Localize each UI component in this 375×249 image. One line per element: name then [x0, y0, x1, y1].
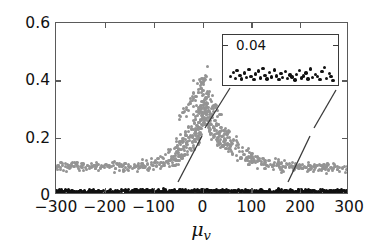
data-point: [225, 132, 228, 135]
data-point: [213, 129, 216, 132]
data-point: [270, 192, 273, 193]
data-point: [69, 190, 72, 193]
data-point: [201, 116, 204, 119]
data-point: [197, 121, 200, 124]
data-point: [103, 166, 106, 169]
data-point: [223, 190, 226, 193]
data-point: [59, 189, 62, 192]
data-point: [209, 122, 212, 125]
data-point: [131, 191, 134, 193]
data-point: [216, 138, 219, 141]
data-point: [244, 158, 247, 161]
data-point: [211, 105, 214, 108]
x-tick-mark-top: [154, 23, 155, 28]
data-point: [135, 188, 138, 191]
data-point: [198, 112, 201, 115]
data-point: [231, 191, 234, 193]
data-point: [110, 191, 113, 193]
inset-data-point: [325, 77, 328, 80]
data-point: [200, 114, 203, 117]
data-point: [318, 168, 321, 171]
data-point: [173, 164, 176, 167]
data-point: [217, 136, 220, 139]
data-point: [278, 189, 281, 192]
inset-data-point: [273, 68, 276, 71]
data-point: [241, 150, 244, 153]
data-point: [189, 147, 192, 150]
data-point: [309, 191, 312, 193]
data-point: [182, 147, 185, 150]
data-point: [256, 160, 259, 163]
data-point: [142, 166, 145, 169]
data-point: [180, 190, 183, 193]
data-point: [99, 166, 102, 169]
data-point: [266, 190, 269, 193]
data-point: [189, 148, 192, 151]
data-point: [268, 192, 271, 193]
data-point: [189, 147, 192, 150]
data-point: [208, 126, 211, 129]
data-point: [94, 190, 97, 193]
data-point: [208, 119, 211, 122]
data-point: [159, 190, 162, 193]
data-point: [233, 192, 236, 193]
data-point: [255, 191, 258, 193]
data-point: [222, 191, 225, 193]
data-point: [269, 163, 272, 166]
data-point: [191, 134, 194, 137]
data-point: [197, 121, 200, 124]
data-point: [174, 152, 177, 155]
data-point: [341, 167, 344, 170]
data-point: [77, 167, 80, 170]
data-point: [257, 190, 260, 193]
data-point: [272, 168, 275, 171]
data-point: [128, 166, 131, 169]
data-point: [327, 163, 330, 166]
data-point: [208, 116, 211, 119]
data-point: [314, 191, 317, 193]
data-point: [202, 112, 205, 115]
data-point: [66, 166, 69, 169]
data-point: [307, 190, 310, 193]
data-point: [71, 191, 74, 193]
data-point: [274, 191, 277, 193]
data-point: [218, 142, 221, 145]
data-point: [210, 115, 213, 118]
data-point: [343, 165, 346, 168]
data-point: [161, 191, 164, 193]
data-point: [294, 190, 297, 193]
data-point: [137, 190, 140, 193]
data-point: [127, 169, 130, 172]
data-point: [66, 163, 69, 166]
data-point: [215, 138, 218, 141]
data-point: [68, 192, 71, 193]
data-point: [124, 162, 127, 165]
data-point: [278, 166, 281, 169]
data-point: [342, 189, 345, 192]
data-point: [194, 99, 197, 102]
data-point: [250, 161, 253, 164]
data-point: [59, 166, 62, 169]
data-point: [97, 189, 100, 192]
data-point: [236, 189, 239, 192]
data-point: [140, 162, 143, 165]
data-point: [206, 110, 209, 113]
data-point: [285, 189, 288, 192]
data-point: [323, 163, 326, 166]
data-point: [235, 144, 238, 147]
data-point: [218, 130, 221, 133]
data-point: [116, 191, 119, 193]
data-point: [147, 190, 150, 193]
data-point: [68, 164, 71, 167]
data-point: [248, 160, 251, 163]
data-point: [298, 163, 301, 166]
data-point: [120, 165, 123, 168]
data-point: [218, 142, 221, 145]
data-point: [141, 189, 144, 192]
data-point: [140, 191, 143, 193]
inset-data-point: [309, 67, 312, 70]
data-point: [180, 190, 183, 193]
x-tick-mark-top: [251, 23, 252, 28]
inset-data-point: [293, 78, 296, 81]
data-point: [81, 166, 84, 169]
